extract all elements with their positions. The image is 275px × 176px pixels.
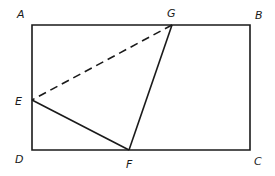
label-f: F — [126, 158, 133, 171]
label-d: D — [15, 153, 23, 166]
segment-ef — [32, 100, 129, 150]
label-g: G — [167, 7, 176, 20]
label-a: A — [16, 8, 25, 21]
geometry-diagram: A B C D E F G — [0, 0, 275, 176]
segment-ge-dashed — [32, 25, 172, 100]
label-e: E — [15, 95, 22, 108]
rectangle-abcd — [32, 25, 250, 150]
label-c: C — [254, 155, 262, 168]
label-b: B — [255, 9, 263, 22]
